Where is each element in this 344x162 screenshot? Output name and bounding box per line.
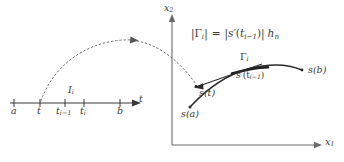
- x2-axis-label-sub: 2: [169, 6, 173, 14]
- s-t-label: s(t): [199, 88, 215, 98]
- mapping-arc-left: [41, 40, 133, 101]
- formula-h: h: [265, 27, 275, 39]
- t-axis-label: t: [139, 94, 143, 104]
- gamma-i-label: Γi: [240, 52, 249, 63]
- x1-axis-arrowhead: [314, 142, 322, 148]
- x2-axis-arrowhead: [169, 14, 175, 22]
- derivative-label-close: ): [261, 70, 265, 80]
- tick-label-t-i-sub: i: [84, 109, 86, 117]
- tick-label-t-i-minus-1-sub: i−1: [60, 109, 72, 117]
- formula-h-sub: n: [274, 32, 279, 41]
- formula-t-sub: i−1: [244, 32, 257, 41]
- s-b-label: s(b): [308, 65, 326, 75]
- derivative-label-sub: i−1: [250, 73, 261, 80]
- arc-length-formula: |Γi|=|s′(ti−1)|hn: [191, 28, 279, 40]
- tick-label-t-i: ti: [80, 106, 86, 117]
- x1-axis-label-sub: 1: [330, 140, 334, 148]
- x2-axis-label: x2: [164, 3, 173, 14]
- gamma-i-label-base: Γ: [240, 51, 247, 62]
- s-a-label: s(a): [181, 109, 199, 119]
- point-s-b: [301, 69, 304, 72]
- interval-label-sub: i: [72, 88, 74, 96]
- formula-equals: =: [208, 27, 225, 39]
- tick-label-b: b: [117, 106, 123, 116]
- mapping-arc-group: [41, 37, 196, 102]
- tick-label-t-i-minus-1: ti−1: [56, 106, 71, 117]
- derivative-label-open: (t: [243, 70, 250, 80]
- tick-label-t: t: [37, 106, 41, 116]
- mapping-arc-right: [137, 41, 196, 84]
- derivative-label: s′(ti−1): [236, 71, 264, 80]
- interval-label: Ii: [68, 85, 74, 96]
- figure-canvas: [0, 0, 344, 162]
- x1-axis-label: x1: [325, 137, 334, 148]
- point-s-t: [195, 85, 198, 88]
- tick-label-a: a: [11, 106, 17, 116]
- formula-gamma: Γ: [195, 27, 202, 39]
- mapping-arc-arrowhead: [130, 37, 139, 44]
- gamma-i-label-sub: i: [247, 55, 249, 63]
